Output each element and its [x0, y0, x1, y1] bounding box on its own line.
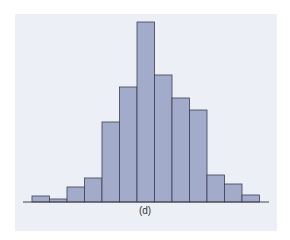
histogram-bars	[32, 22, 260, 202]
histogram-bar	[32, 196, 50, 202]
histogram-bar	[120, 87, 138, 202]
histogram	[0, 0, 290, 240]
histogram-bar	[85, 178, 103, 202]
histogram-bar	[155, 75, 173, 202]
histogram-bar	[190, 110, 208, 202]
histogram-bar	[67, 187, 85, 202]
histogram-bar	[137, 22, 155, 202]
histogram-bar	[172, 98, 190, 202]
histogram-bar	[102, 122, 120, 202]
histogram-bar	[207, 175, 225, 202]
histogram-bar	[225, 184, 243, 202]
histogram-bar	[242, 195, 260, 202]
figure-caption: (d)	[0, 205, 290, 216]
